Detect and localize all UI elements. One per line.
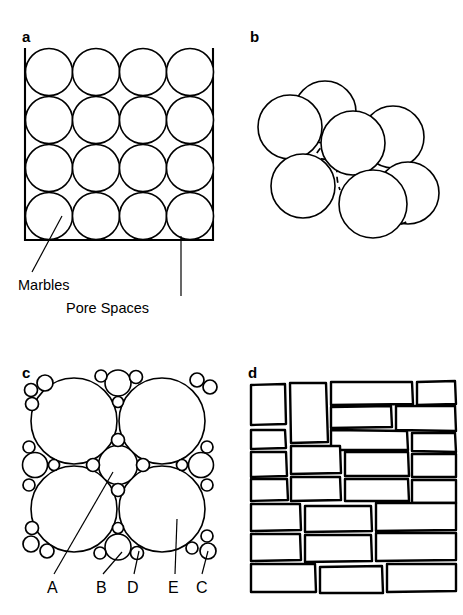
marble: [120, 49, 167, 96]
brick: [376, 533, 456, 561]
marbles-label: Marbles: [18, 277, 70, 293]
brick: [251, 452, 287, 477]
brick: [251, 430, 286, 449]
marble: [26, 97, 73, 144]
small-sphere-corner-bl-c: [40, 544, 54, 558]
small-sphere-top-edge-left: [95, 370, 107, 382]
brick: [396, 406, 456, 431]
marble: [73, 97, 120, 144]
small-sphere-bottom-edge-left: [94, 547, 106, 559]
brick: [331, 382, 413, 405]
brick: [331, 430, 408, 450]
brick: [412, 454, 456, 477]
small-sphere-corner-br-a: [186, 542, 198, 554]
small-sphere-corner-tl-b: [25, 384, 38, 397]
marble: [120, 193, 167, 240]
small-sphere-centre-left: [87, 459, 100, 472]
brick: [376, 503, 456, 531]
small-sphere-corner-tr-b: [203, 380, 217, 394]
panel-c-letter: c: [22, 364, 30, 381]
panel-d-brick-wall: [251, 381, 456, 593]
brick: [251, 564, 316, 592]
small-sphere-corner-tl-a: [37, 375, 53, 391]
marble: [167, 145, 214, 192]
marble: [26, 145, 73, 192]
medium-sphere-left-edge: [23, 453, 48, 478]
marble: [73, 145, 120, 192]
small-sphere-right-edge-top: [201, 441, 213, 453]
small-sphere-right-edge-bottom: [201, 479, 213, 491]
panel-d-letter: d: [248, 364, 257, 381]
small-sphere-corner-bl-b: [23, 536, 39, 552]
brick: [412, 480, 456, 503]
sphere-left: [258, 95, 322, 159]
small-sphere-corner-br-c: [201, 530, 213, 542]
small-sphere-left-edge-inner: [49, 460, 60, 471]
figure-canvas: a Marbles: [0, 0, 463, 615]
marble: [167, 193, 214, 240]
small-sphere-bottom-edge-above: [113, 523, 124, 534]
brick: [412, 433, 456, 452]
medium-sphere-right-edge: [189, 453, 214, 478]
brick: [417, 381, 456, 405]
brick: [345, 452, 409, 476]
brick: [251, 384, 286, 425]
brick: [305, 506, 372, 532]
point-label-d: D: [127, 579, 139, 596]
sphere-front: [339, 170, 407, 238]
brick: [251, 504, 301, 531]
brick: [290, 383, 328, 443]
marble: [73, 193, 120, 240]
sphere-lower-left: [271, 154, 335, 218]
panel-b-letter: b: [250, 28, 259, 45]
small-sphere-centre-right: [137, 459, 150, 472]
brick: [251, 479, 288, 501]
brick: [291, 477, 341, 501]
brick: [387, 564, 456, 592]
panel-a-letter: a: [22, 28, 31, 45]
small-sphere-corner-tl-c: [26, 398, 39, 411]
brick: [345, 479, 409, 501]
brick: [291, 446, 341, 474]
marble: [167, 49, 214, 96]
marble: [120, 97, 167, 144]
small-sphere-left-edge-top: [23, 441, 35, 453]
point-label-a: A: [47, 579, 58, 596]
brick: [251, 534, 301, 561]
point-label-c: C: [196, 579, 208, 596]
small-sphere-corner-bl-a: [26, 522, 39, 535]
small-sphere-top-edge-right: [130, 371, 143, 384]
small-sphere-centre-top: [112, 434, 125, 447]
medium-sphere-top-edge: [105, 370, 131, 396]
brick: [320, 566, 383, 593]
porosity-figure: a Marbles: [0, 0, 463, 615]
brick: [331, 406, 392, 428]
point-label-b: B: [96, 579, 107, 596]
brick: [305, 535, 372, 562]
small-sphere-corner-tr-a: [190, 373, 204, 387]
small-sphere-right-edge-inner: [177, 460, 188, 471]
point-label-e: E: [168, 579, 179, 596]
marble: [120, 145, 167, 192]
marble: [26, 49, 73, 96]
small-sphere-left-edge-bottom: [23, 479, 35, 491]
small-sphere-top-edge-below: [113, 397, 124, 408]
marble: [26, 193, 73, 240]
pore-spaces-label: Pore Spaces: [66, 300, 149, 316]
sphere-middle-upper: [321, 111, 385, 175]
panel-c-packing: [23, 370, 218, 560]
marble: [167, 97, 214, 144]
small-sphere-centre-bottom: [112, 484, 125, 497]
medium-sphere-centre: [99, 446, 138, 485]
marble: [73, 49, 120, 96]
